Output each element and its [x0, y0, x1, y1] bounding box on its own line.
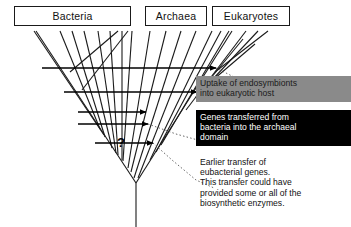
- callout-endosymbiont-uptake: Uptake of endosymbionts into eukaryotic …: [196, 76, 351, 102]
- figure-canvas: Bacteria Archaea Eukaryotes: [0, 0, 351, 227]
- question-mark-annotation: ?: [117, 136, 125, 149]
- callout-genes-transferred: Genes transferred from bacteria into the…: [196, 110, 351, 146]
- callout-earlier-transfer: Earlier transfer of eubacterial genes. T…: [196, 155, 351, 215]
